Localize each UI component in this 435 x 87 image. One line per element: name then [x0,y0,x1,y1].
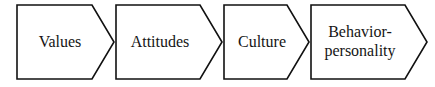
chevron-step-culture: Culture [224,5,309,79]
chevron-flow-diagram: Values Attitudes Culture Behavior- perso… [0,0,435,87]
chevron-label-culture: Culture [238,33,286,50]
chevron-step-behavior-personality: Behavior- personality [311,5,427,79]
chevron-label-attitudes: Attitudes [131,33,190,50]
chevron-step-attitudes: Attitudes [116,5,222,79]
flow-diagram-canvas: Values Attitudes Culture Behavior- perso… [0,0,435,87]
chevron-label-behavior-line1: Behavior- [328,23,392,40]
chevron-step-values: Values [17,5,114,79]
chevron-label-behavior-line2: personality [324,42,395,60]
chevron-label-values: Values [39,33,82,50]
